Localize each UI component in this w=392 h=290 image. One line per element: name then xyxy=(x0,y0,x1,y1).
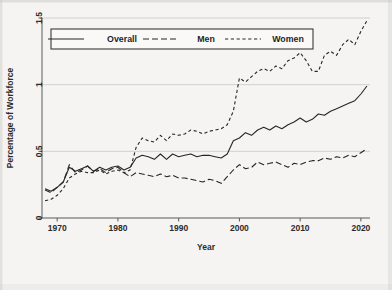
chart-canvas: 00.511.5 197019801990200020102020 Percen… xyxy=(0,0,392,290)
x-tick-label: 1990 xyxy=(169,223,188,233)
y-tick-label: 0 xyxy=(34,215,44,220)
x-axis-title: Year xyxy=(197,242,216,252)
chart-legend: OverallMenWomen xyxy=(48,29,313,49)
chart-figure: 00.511.5 197019801990200020102020 Percen… xyxy=(0,0,392,290)
x-tick-label: 2020 xyxy=(351,223,370,233)
legend-label-women: Women xyxy=(272,34,304,44)
x-tick-label: 2000 xyxy=(230,223,249,233)
x-axis-ticks: 197019801990200020102020 xyxy=(48,218,371,233)
x-tick-label: 1980 xyxy=(108,223,127,233)
series-line-overall xyxy=(45,86,367,191)
y-tick-label: 0.5 xyxy=(34,145,44,157)
legend-label-men: Men xyxy=(197,34,215,44)
y-tick-label: 1 xyxy=(34,82,44,87)
y-axis-ticks: 00.511.5 xyxy=(34,12,44,221)
y-axis-title: Percentage of Workforce xyxy=(5,68,15,169)
y-tick-label: 1.5 xyxy=(34,12,44,24)
x-tick-label: 1970 xyxy=(48,223,67,233)
x-tick-label: 2010 xyxy=(291,223,310,233)
legend-label-overall: Overall xyxy=(107,34,137,44)
